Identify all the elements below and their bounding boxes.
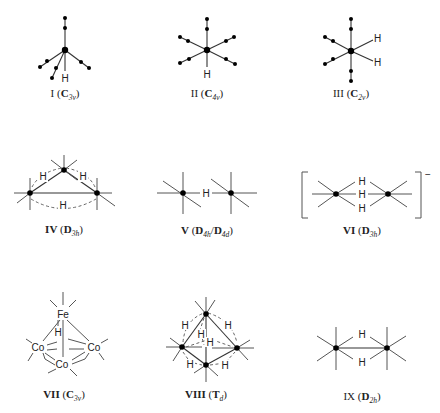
ligand-atom [349,69,353,73]
hydride-structures-figure: H I (C3v) H II (C4v) [0,0,440,413]
right-bracket [415,172,421,218]
metal-atom [204,47,210,53]
hydride-label: H [224,320,231,331]
hydride-label: H [79,171,86,182]
structure-V: H V (D4h/D4d) [157,172,257,239]
structures-svg: H I (C3v) H II (C4v) [0,0,440,413]
metal-atom [385,191,391,197]
metal-atom [203,311,209,317]
ligand-atom [323,62,327,66]
metal-atom [179,344,185,350]
cobalt-atom-label: Co [32,342,45,353]
hydride-label: H [197,329,204,340]
ligand-atom [178,35,182,39]
hydride-label: H [374,33,381,44]
ligand-atom [205,27,209,31]
ligand-atom [349,17,353,21]
cobalt-atom-label: Co [88,342,101,353]
hydride-label: H [206,337,213,348]
ligand-atom [331,39,335,43]
charge-sign: − [425,169,431,180]
hydride-label: H [54,327,61,338]
hydride-label: H [181,320,188,331]
structure-I: H I (C3v) [38,16,91,102]
structure-caption: II (C4v) [191,87,224,102]
structure-caption: I (C3v) [51,87,80,102]
ligand-atom [54,66,58,70]
structure-caption: VI (D3h) [343,224,381,239]
hydride-label: H [358,329,365,340]
hydride-label: H [203,69,210,80]
ligand-atom [232,35,236,39]
metal-atom [61,167,67,173]
hydride-label: H [358,189,365,200]
hydride-label: H [186,359,193,370]
metal-atom [203,362,209,368]
cobalt-atom-label: Co [56,359,69,370]
ligand-atom [224,39,228,43]
ligand-atom [38,65,42,69]
ligand-atom [63,26,67,30]
ligand-atom [63,16,67,20]
ligand-atom [205,17,209,21]
structure-caption: V (D4h/D4d) [181,224,233,239]
hydride-label: H [202,188,209,199]
ligand-atom [224,57,228,61]
ligand-atom [79,60,83,64]
structure-IX: H H IX (D2h) [317,327,406,405]
structure-caption: IV (D3h) [45,223,83,238]
structure-caption: VII (C3v) [43,388,85,403]
iron-atom-label: Fe [57,309,69,320]
hydride-label: H [358,176,365,187]
ligand-atom [87,66,91,70]
structure-VI: − H H H VI (D3h) [302,169,431,239]
structure-II: H II (C4v) [178,17,237,102]
ligand-atom [50,76,54,80]
ligand-atom [233,62,237,66]
metal-atom [94,190,100,196]
metal-atom [27,190,33,196]
ligand-atom [323,35,327,39]
ligand-atom [331,57,335,61]
structure-III: H H III (C2v) [323,17,381,102]
ligand-atom [349,79,353,83]
ligand-atom [349,27,353,31]
structure-caption: VIII (Td) [185,388,227,403]
metal-atom [384,345,390,351]
left-bracket [302,172,308,218]
metal-atom [234,345,240,351]
metal-atom [333,345,339,351]
structure-caption: III (C2v) [333,87,369,102]
metal-atom [180,190,186,196]
ligand-atom [178,61,182,65]
hydride-label: H [61,73,68,84]
hydride-label: H [39,171,46,182]
hydride-label: H [358,203,365,214]
ligand-atom [45,59,49,63]
metal-atom [333,191,339,197]
hydride-label: H [358,357,365,368]
hydride-label: H [374,57,381,68]
metal-atom [62,47,68,53]
hydride-label: H [59,200,66,211]
ligand-atom [186,39,190,43]
structure-VII: Fe H Co Co Co VII (C3v) [26,292,108,403]
ligand-atom [187,57,191,61]
metal-atom [228,190,234,196]
hydride-label: H [221,360,228,371]
structure-VIII: H H H H H H VIII (Td) [166,297,254,403]
structure-caption: IX (D2h) [343,390,380,405]
structure-IV: H H H IV (D3h) [14,155,115,238]
metal-atom [348,48,354,54]
